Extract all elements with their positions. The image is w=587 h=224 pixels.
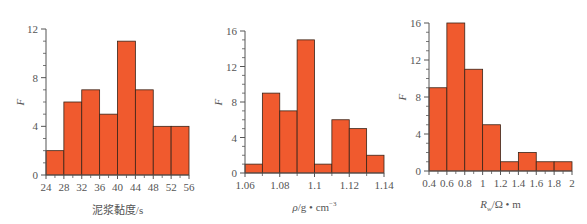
x-tick-label: 44 bbox=[130, 181, 142, 193]
x-tick-label: 28 bbox=[58, 181, 70, 193]
y-tick-label: 0 bbox=[232, 167, 238, 179]
x-tick-label: 40 bbox=[112, 181, 124, 193]
histogram-bar bbox=[536, 162, 554, 171]
x-tick-label: 1.12 bbox=[340, 179, 359, 191]
histogram-resistivity: 0.40.60.811.21.41.61.820481216FRw/Ω • m bbox=[396, 17, 575, 213]
histogram-bar bbox=[46, 151, 64, 175]
x-tick-label: 1.8 bbox=[547, 177, 561, 189]
histogram-bar bbox=[465, 69, 483, 171]
histogram-bar bbox=[245, 164, 262, 173]
x-tick-label: 56 bbox=[184, 181, 196, 193]
histogram-bar bbox=[64, 102, 82, 175]
y-tick-label: 8 bbox=[33, 72, 39, 84]
y-axis-title: F bbox=[212, 98, 224, 106]
histogram-bar bbox=[135, 90, 153, 175]
y-axis-title: F bbox=[396, 93, 408, 101]
histogram-bar bbox=[82, 90, 100, 175]
histogram-panel: 24283236404448525604812F泥浆黏度/s 1.061.081… bbox=[0, 0, 587, 224]
y-tick-label: 0 bbox=[33, 169, 39, 181]
y-tick-label: 4 bbox=[33, 120, 39, 132]
x-axis-title: ρ/g • cm−3 bbox=[291, 200, 337, 213]
x-tick-label: 48 bbox=[148, 181, 160, 193]
x-axis-title: Rw/Ω • m bbox=[479, 198, 521, 213]
y-tick-label: 8 bbox=[416, 91, 422, 103]
x-tick-label: 1.14 bbox=[374, 179, 394, 191]
y-tick-label: 12 bbox=[410, 54, 421, 66]
histogram-bar bbox=[315, 164, 332, 173]
histogram-bar bbox=[297, 40, 314, 173]
histogram-bar bbox=[332, 120, 349, 173]
x-tick-label: 1.4 bbox=[512, 177, 526, 189]
histogram-bar bbox=[501, 162, 519, 171]
histogram-bar bbox=[280, 111, 297, 173]
histogram-mud-viscosity: 24283236404448525604812F泥浆黏度/s bbox=[14, 23, 195, 216]
x-tick-label: 1.06 bbox=[235, 179, 255, 191]
x-tick-label: 2 bbox=[569, 177, 575, 189]
x-tick-label: 32 bbox=[76, 181, 87, 193]
histogram-bar bbox=[447, 23, 465, 171]
histogram-bar bbox=[518, 153, 536, 172]
y-tick-label: 8 bbox=[232, 96, 238, 108]
x-tick-label: 1.6 bbox=[529, 177, 543, 189]
y-tick-label: 4 bbox=[232, 132, 238, 144]
y-tick-label: 0 bbox=[416, 165, 422, 177]
histogram-bar bbox=[153, 126, 171, 175]
y-tick-label: 16 bbox=[226, 25, 238, 37]
x-tick-label: 1.08 bbox=[270, 179, 290, 191]
histogram-bar bbox=[349, 129, 366, 173]
histogram-bar bbox=[429, 88, 447, 171]
histogram-bar bbox=[118, 41, 136, 175]
x-tick-label: 36 bbox=[94, 181, 106, 193]
y-tick-label: 4 bbox=[416, 128, 422, 140]
histogram-bar bbox=[100, 114, 118, 175]
y-axis-title: F bbox=[14, 98, 26, 106]
x-tick-label: 24 bbox=[41, 181, 53, 193]
histogram-bar bbox=[262, 93, 279, 173]
x-tick-label: 0.4 bbox=[422, 177, 436, 189]
x-axis-title: 泥浆黏度/s bbox=[92, 203, 143, 216]
x-tick-label: 0.6 bbox=[440, 177, 454, 189]
histogram-density: 1.061.081.11.121.140481216Fρ/g • cm−3 bbox=[212, 25, 394, 213]
x-tick-label: 1.1 bbox=[308, 179, 322, 191]
y-tick-label: 12 bbox=[226, 61, 237, 73]
histogram-bar bbox=[554, 162, 572, 171]
x-tick-label: 0.8 bbox=[458, 177, 472, 189]
histogram-bar bbox=[483, 125, 501, 171]
y-tick-label: 16 bbox=[410, 17, 422, 29]
x-tick-label: 1 bbox=[480, 177, 486, 189]
x-tick-label: 52 bbox=[166, 181, 177, 193]
histogram-bar bbox=[171, 126, 189, 175]
histogram-bar bbox=[367, 155, 384, 173]
x-tick-label: 1.2 bbox=[494, 177, 508, 189]
y-tick-label: 12 bbox=[27, 23, 38, 35]
